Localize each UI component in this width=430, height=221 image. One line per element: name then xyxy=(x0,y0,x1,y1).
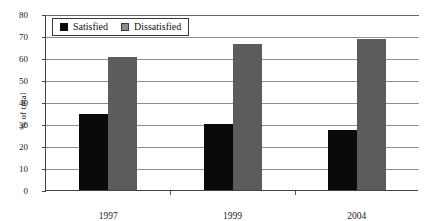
y-tick-label-20: 20 xyxy=(0,143,28,152)
legend-label: Satisfied xyxy=(73,21,108,32)
y-tick-label-10: 10 xyxy=(0,165,28,174)
legend-item-dissatisfied: Dissatisfied xyxy=(121,21,181,32)
chart-legend: SatisfiedDissatisfied xyxy=(52,18,189,36)
gridline-70 xyxy=(46,37,419,38)
y-tick-mark-40 xyxy=(42,103,46,104)
y-tick-label-30: 30 xyxy=(0,121,28,130)
plot-area: 01020304050607080 199719992004 xyxy=(45,15,418,191)
y-tick-label-70: 70 xyxy=(0,33,28,42)
bar-satisfied-2004 xyxy=(328,130,357,191)
y-tick-mark-30 xyxy=(42,125,46,126)
gridline-80 xyxy=(46,15,419,16)
y-tick-mark-60 xyxy=(42,59,46,60)
bar-satisfied-1999 xyxy=(204,124,233,190)
y-tick-mark-80 xyxy=(42,15,46,16)
y-tick-mark-10 xyxy=(42,169,46,170)
y-tick-mark-70 xyxy=(42,37,46,38)
x-tick-mark-1 xyxy=(170,191,171,195)
y-tick-label-40: 40 xyxy=(0,99,28,108)
x-axis-label-1999: 1999 xyxy=(198,211,268,221)
legend-item-satisfied: Satisfied xyxy=(60,21,108,32)
bar-dissatisfied-1999 xyxy=(233,44,262,190)
x-axis-label-2004: 2004 xyxy=(322,211,392,221)
x-tick-mark-2 xyxy=(295,191,296,195)
y-tick-label-0: 0 xyxy=(0,187,28,196)
bar-chart-figure: % of total 01020304050607080 19971999200… xyxy=(0,0,430,221)
gray-square-icon xyxy=(121,23,129,31)
bar-satisfied-1997 xyxy=(79,114,108,190)
black-square-icon xyxy=(60,23,68,31)
y-tick-label-60: 60 xyxy=(0,55,28,64)
bar-dissatisfied-1997 xyxy=(108,57,137,190)
y-tick-mark-20 xyxy=(42,147,46,148)
bar-dissatisfied-2004 xyxy=(357,39,386,190)
x-axis-label-1997: 1997 xyxy=(73,211,143,221)
y-tick-label-80: 80 xyxy=(0,11,28,20)
y-tick-mark-50 xyxy=(42,81,46,82)
y-tick-label-50: 50 xyxy=(0,77,28,86)
legend-label: Dissatisfied xyxy=(134,21,181,32)
y-tick-mark-0 xyxy=(42,191,46,192)
